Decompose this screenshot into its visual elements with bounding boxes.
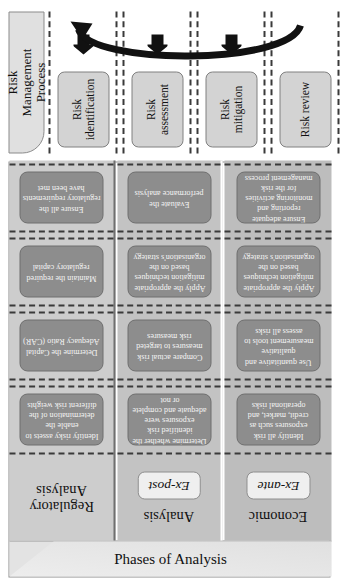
cell-card: Apply the appropriate mitigation techniq…	[127, 246, 211, 298]
cell-card: Evaluate the performance analysis	[127, 172, 211, 224]
lane-risk-mitigation-ex-post: Apply the appropriate mitigation techniq…	[117, 237, 220, 306]
band-ex-ante-economic: Economic Ex-ante Identify all risk expos…	[224, 160, 331, 540]
band-head-regulatory: Regulatory Analysis	[9, 454, 113, 540]
lanes-ex-ante: Identify all risk exposures such as cred…	[224, 160, 331, 454]
phases-of-analysis-matrix: Phases of Analysis Regulatory Analysis I…	[8, 161, 330, 577]
cell-text: Evaluate the performance analysis	[130, 187, 208, 207]
lane-risk-review-ex-post: Evaluate the performance analysis	[117, 163, 220, 232]
band-title-regulatory: Regulatory Analysis	[29, 481, 93, 512]
cell-text: Determine the Capital Adequacy Ratio (CA…	[22, 335, 100, 355]
cell-card: Compare actual risk measures to targeted…	[127, 320, 211, 372]
cell-card: Identify risky assets to enable the dete…	[19, 394, 103, 446]
band-title-analysis: Analysis	[143, 507, 194, 523]
arrow-assessment-to-mitigation	[147, 27, 167, 61]
cell-card: Apply the appropriate mitigation techniq…	[236, 246, 320, 298]
lanes-ex-post: Determine whether the identified risk ex…	[117, 160, 220, 454]
phases-of-analysis-spine: Phases of Analysis	[9, 540, 331, 576]
cell-card: Use quantitative and qualitative measure…	[236, 320, 320, 372]
lane-risk-mitigation-ex-ante: Apply the appropriate mitigation techniq…	[224, 237, 331, 306]
arrow-mitigation-to-review	[221, 27, 241, 61]
spine-label: Phases of Analysis	[9, 540, 331, 576]
lane-risk-review-regulatory: Ensure all the regulatory requirements h…	[9, 163, 113, 232]
cell-card: Maintain the required regulatory capital	[19, 246, 103, 298]
process-lane-risk-mitigation: Risk mitigation	[196, 11, 265, 153]
band-head-ex-post: Analysis Ex-post	[117, 454, 220, 540]
cell-text: Use quantitative and qualitative measure…	[239, 325, 317, 365]
band-title-economic: Economic	[248, 507, 307, 523]
cell-text: Maintain the required regulatory capital	[22, 261, 100, 281]
risk-analysis-framework-diagram: Phases of Analysis Regulatory Analysis I…	[8, 11, 330, 577]
arrow-identification-to-assessment	[73, 27, 93, 61]
cell-text: Apply the appropriate mitigation techniq…	[130, 251, 208, 291]
process-step-risk-review[interactable]: Risk review	[279, 71, 331, 147]
lane-risk-assessment-ex-post: Compare actual risk measures to targeted…	[117, 311, 220, 380]
cell-text: Identify all risk exposures such as cred…	[239, 399, 317, 439]
band-chip-ex-post: Ex-post	[137, 471, 200, 499]
process-lane-risk-review: Risk review	[270, 11, 339, 153]
process-step-risk-assessment[interactable]: Risk assessment	[131, 71, 183, 147]
lanes-regulatory: Identify risky assets to enable the dete…	[9, 160, 113, 454]
lane-risk-mitigation-regulatory: Maintain the required regulatory capital	[9, 237, 113, 306]
process-lane-risk-assessment: Risk assessment	[122, 11, 191, 153]
lane-risk-review-ex-ante: Ensure adequate reporting and monitoring…	[224, 163, 331, 232]
band-regulatory-analysis: Regulatory Analysis Identify risky asset…	[9, 160, 115, 540]
cell-text: Ensure all the regulatory requirements h…	[22, 182, 100, 212]
figure-canvas: Phases of Analysis Regulatory Analysis I…	[0, 0, 341, 587]
cell-text: Compare actual risk measures to targeted…	[130, 330, 208, 360]
cell-card: Determine whether the identified risk ex…	[127, 394, 211, 446]
band-head-ex-ante: Economic Ex-ante	[224, 454, 331, 540]
process-steps: Risk identification Risk assessment	[48, 11, 330, 153]
cell-text: Determine whether the identified risk ex…	[130, 394, 208, 445]
cell-card: Ensure adequate reporting and monitoring…	[236, 172, 320, 224]
cell-text: Ensure adequate reporting and monitoring…	[239, 172, 317, 223]
cell-text: Apply the appropriate mitigation techniq…	[239, 251, 317, 291]
lane-risk-assessment-ex-ante: Use quantitative and qualitative measure…	[224, 311, 331, 380]
risk-management-process-strip: Risk Management Process Risk identificat…	[8, 11, 330, 153]
process-lane-risk-identification: Risk identification	[48, 11, 117, 153]
process-step-risk-identification[interactable]: Risk identification	[57, 71, 109, 147]
lane-risk-identification-regulatory: Identify risky assets to enable the dete…	[9, 385, 113, 454]
cell-text: Identify risky assets to enable the dete…	[22, 399, 100, 439]
lane-risk-identification-ex-ante: Identify all risk exposures such as cred…	[224, 385, 331, 454]
band-ex-post-analysis: Analysis Ex-post Determine whether the i…	[117, 160, 222, 540]
cell-card: Determine the Capital Adequacy Ratio (CA…	[19, 320, 103, 372]
lane-risk-identification-ex-post: Determine whether the identified risk ex…	[117, 385, 220, 454]
band-chip-ex-ante: Ex-ante	[246, 471, 310, 499]
risk-management-process-header: Risk Management Process	[8, 11, 44, 153]
cell-card: Ensure all the regulatory requirements h…	[19, 172, 103, 224]
analysis-bands: Regulatory Analysis Identify risky asset…	[9, 160, 331, 540]
lane-risk-assessment-regulatory: Determine the Capital Adequacy Ratio (CA…	[9, 311, 113, 380]
process-step-risk-mitigation[interactable]: Risk mitigation	[205, 71, 257, 147]
risk-management-process-label: Risk Management Process	[5, 48, 47, 116]
cell-card: Identify all risk exposures such as cred…	[236, 394, 320, 446]
